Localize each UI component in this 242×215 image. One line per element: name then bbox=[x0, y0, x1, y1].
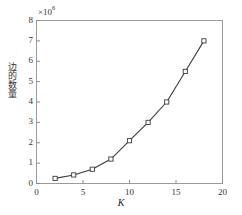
y-axis-title: 边的数量 bbox=[1, 62, 17, 98]
y-tick-label: 1 bbox=[17, 157, 33, 167]
chart-figure: ×106 边的数量 K 012345678 05101520 bbox=[0, 0, 242, 215]
data-point-marker bbox=[183, 69, 187, 73]
data-point-marker bbox=[202, 39, 206, 43]
y-axis-exponent-power: 6 bbox=[52, 4, 55, 11]
plot-area-border bbox=[37, 21, 223, 184]
x-tick-label: 5 bbox=[74, 187, 92, 197]
plot-canvas bbox=[0, 0, 242, 215]
x-tick-label: 20 bbox=[214, 187, 232, 197]
y-axis-exponent-label: ×106 bbox=[38, 5, 55, 17]
y-tick-label: 7 bbox=[17, 35, 33, 45]
plot-frame bbox=[37, 21, 223, 184]
y-tick-label: 5 bbox=[17, 76, 33, 86]
x-tick-label: 10 bbox=[121, 187, 139, 197]
x-tick-label: 0 bbox=[28, 187, 46, 197]
data-point-marker bbox=[146, 120, 150, 124]
data-point-marker bbox=[109, 157, 113, 161]
data-point-marker bbox=[53, 176, 57, 180]
data-point-marker bbox=[90, 167, 94, 171]
x-tick-label: 15 bbox=[167, 187, 185, 197]
y-tick-label: 8 bbox=[17, 15, 33, 25]
x-axis-title: K bbox=[0, 197, 242, 208]
y-tick-label: 4 bbox=[17, 96, 33, 106]
data-point-marker bbox=[165, 100, 169, 104]
data-point-marker bbox=[72, 173, 76, 177]
y-tick-label: 3 bbox=[17, 116, 33, 126]
data-point-marker bbox=[127, 139, 131, 143]
y-axis-exponent-base: ×10 bbox=[38, 7, 52, 17]
y-tick-label: 6 bbox=[17, 55, 33, 65]
y-tick-label: 2 bbox=[17, 137, 33, 147]
